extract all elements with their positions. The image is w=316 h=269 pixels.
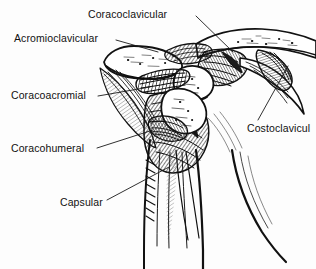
label-coracohumeral: Coracohumeral bbox=[11, 142, 84, 154]
label-costoclavicular: Costoclavicul bbox=[247, 122, 310, 134]
label-coracoclavicular: Coracoclavicular bbox=[88, 8, 167, 20]
label-acromioclavicular: Acromioclavicular bbox=[14, 32, 98, 44]
label-coracoacromial: Coracoacromial bbox=[11, 89, 86, 101]
label-capsular: Capsular bbox=[60, 196, 103, 208]
anatomical-figure: Coracoclavicular Acromioclavicular Corac… bbox=[0, 0, 316, 269]
